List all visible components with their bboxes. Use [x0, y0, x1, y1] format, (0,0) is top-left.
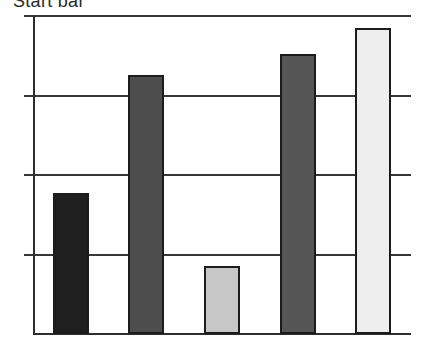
gridline	[24, 95, 411, 97]
chart-figure: Start bar	[0, 0, 430, 356]
y-axis-line	[33, 16, 35, 334]
bar-4	[280, 54, 316, 334]
plot-area	[0, 0, 430, 356]
bar-1	[53, 193, 89, 334]
gridline	[24, 174, 411, 176]
bar-3	[204, 266, 240, 334]
bar-5	[355, 28, 391, 334]
bar-2	[128, 75, 164, 334]
plot-top-line	[24, 15, 411, 17]
